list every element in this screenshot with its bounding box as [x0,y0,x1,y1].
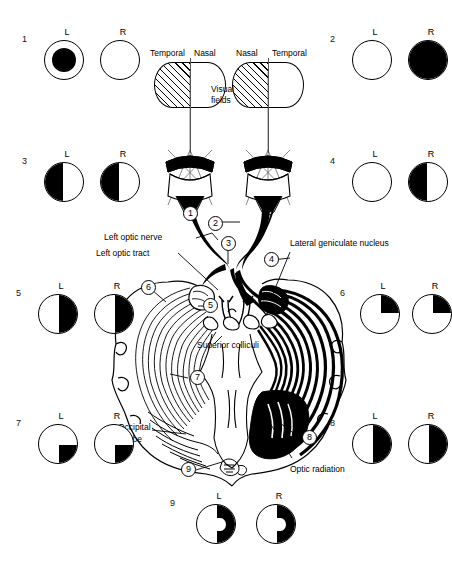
left-optic-nerve-label: Left optic nerve [104,232,162,242]
defect-number-3: 3 [22,156,27,166]
defect-number-8: 8 [330,418,335,428]
defect-4-left-label: L [372,150,377,159]
lateral-geniculate-nucleus-label: Lateral geniculate nucleus [290,238,389,248]
lesion-marker-7[interactable]: 7 [190,370,205,385]
defect-9-left-disc [196,504,236,544]
field-defect-4: 4 L R [330,150,450,210]
defect-3-left-label: L [64,150,69,159]
defect-2-right-disc [408,40,448,80]
defect-2-left-disc [352,40,392,80]
defect-6-right-disc [412,294,452,334]
defect-1-right-disc [100,40,140,80]
defect-9-right-disc [256,504,296,544]
defect-5-right-disc [94,294,134,334]
field-defect-8: 8 L R [330,412,450,472]
defect-7-left-disc [38,424,78,464]
defect-5-left-label: L [58,282,63,291]
lesion-marker-1[interactable]: 1 [183,206,198,221]
defect-6-left-label: L [380,282,385,291]
right-eye-temporal-field [268,62,304,108]
right-field-nasal-label: Nasal [236,48,258,58]
right-field-temporal-label: Temporal [272,48,307,58]
defect-1-right-label: R [120,28,127,37]
defect-number-2: 2 [330,34,335,44]
lesion-marker-8[interactable]: 8 [302,430,317,445]
visual-fields-caption-line2: fields [211,95,231,105]
lesion-marker-9[interactable]: 9 [181,462,196,477]
defect-4-right-disc [408,162,448,202]
defect-number-4: 4 [330,156,335,166]
left-eye-temporal-field [154,62,190,108]
lesion-marker-3[interactable]: 3 [221,236,236,251]
defect-6-left-disc [360,294,400,334]
superior-colliculi-label: Superior colliculi [197,340,259,350]
defect-8-left-disc [352,424,392,464]
left-field-midline [190,58,191,153]
defect-7-right-disc [94,424,134,464]
right-eye-retina [244,156,292,215]
defect-number-1: 1 [22,34,27,44]
defect-4-right-label: R [428,150,435,159]
field-defect-6: 6 L R [340,282,452,342]
defect-1-left-disc [44,40,84,80]
defect-7-right-label: R [114,412,121,421]
left-field-nasal-label: Nasal [194,48,216,58]
defect-9-right-label: R [276,492,283,501]
lesion-marker-4[interactable]: 4 [264,252,279,267]
figure-canvas: Temporal Nasal Nasal Temporal Visual fie… [0,0,452,564]
defect-5-right-label: R [114,282,121,291]
defect-8-left-label: L [372,412,377,421]
defect-3-right-label: R [120,150,127,159]
defect-number-7: 7 [16,418,21,428]
defect-3-left-disc [44,162,84,202]
field-defect-5: 5 L R [16,282,136,342]
field-defect-2: 2 L R [330,28,450,88]
defect-3-right-disc [100,162,140,202]
defect-8-right-disc [408,424,448,464]
defect-5-left-disc [38,294,78,334]
defect-4-left-disc [352,162,392,202]
right-eye-nasal-field [232,62,268,108]
defect-number-6: 6 [340,288,345,298]
visual-fields-caption-line1: Visual [211,84,234,94]
defect-9-left-label: L [216,492,221,501]
defect-1-left-label: L [64,28,69,37]
left-optic-tract-label: Left optic tract [96,248,149,258]
defect-2-right-label: R [428,28,435,37]
defect-2-left-label: L [372,28,377,37]
defect-6-right-label: R [432,282,439,291]
left-field-temporal-label: Temporal [150,48,185,58]
defect-7-left-label: L [58,412,63,421]
lesion-marker-2[interactable]: 2 [208,216,223,231]
defect-number-9: 9 [170,498,175,508]
defect-number-5: 5 [16,288,21,298]
right-field-midline [268,58,269,153]
right-occipital-cortex [249,391,308,459]
defect-8-right-label: R [428,412,435,421]
lesion-marker-5[interactable]: 5 [203,298,218,313]
lesion-marker-6[interactable]: 6 [141,280,156,295]
field-defect-7: 7 L R [16,412,136,472]
field-defect-1: 1 L R [22,28,142,88]
field-defect-9: 9 L R [170,492,310,552]
field-defect-3: 3 L R [22,150,142,210]
